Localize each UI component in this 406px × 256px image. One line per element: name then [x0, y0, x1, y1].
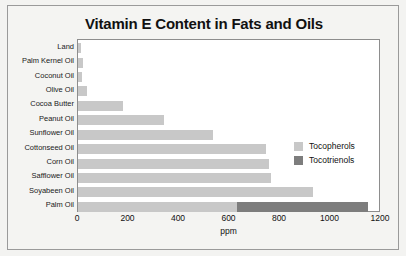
y-axis-label: Palm Kernel Oil: [8, 56, 74, 65]
bar-row: [78, 159, 269, 169]
legend-swatch: [294, 142, 303, 151]
x-axis-tick-label: 0: [75, 213, 80, 223]
chart-frame: Vitamin E Content in Fats and Oils LandP…: [7, 5, 399, 250]
y-axis-label: Sunflower Oil: [8, 128, 74, 137]
legend-label: Tocopherols: [309, 141, 355, 151]
y-axis-label: Land: [8, 42, 74, 51]
y-axis-label: Cottonseed Oil: [8, 143, 74, 152]
bar-row: [78, 115, 164, 125]
bar-segment-tocopherols: [78, 58, 83, 68]
legend-item: Tocopherols: [294, 140, 355, 152]
plot-area: TocopherolsTocotrienols: [77, 39, 380, 212]
bar-segment-tocopherols: [78, 187, 313, 197]
legend-item: Tocotrienols: [294, 154, 355, 166]
y-axis-label: Cocoa Butter: [8, 99, 74, 108]
bar-segment-tocopherols: [78, 202, 237, 212]
x-axis-tick-label: 800: [272, 213, 286, 223]
bar-segment-tocopherols: [78, 43, 81, 53]
x-axis-tick-label: 600: [221, 213, 235, 223]
bar-row: [78, 86, 87, 96]
bar-segment-tocopherols: [78, 159, 269, 169]
bar-row: [78, 72, 82, 82]
y-axis-category-labels: LandPalm Kernel OilCoconut OilOlive OilC…: [8, 39, 74, 212]
bar-segment-tocopherols: [78, 115, 164, 125]
bar-segment-tocopherols: [78, 86, 87, 96]
bar-segment-tocopherols: [78, 144, 266, 154]
x-axis-tick-label: 400: [171, 213, 185, 223]
chart-legend: TocopherolsTocotrienols: [294, 140, 355, 168]
legend-swatch: [294, 156, 303, 165]
y-axis-label: Safflower Oil: [8, 171, 74, 180]
bar-row: [78, 58, 83, 68]
y-axis-label: Soyabeen Oil: [8, 186, 74, 195]
y-axis-label: Peanut Oil: [8, 114, 74, 123]
bar-row: [78, 202, 368, 212]
bar-row: [78, 144, 266, 154]
bar-row: [78, 130, 213, 140]
x-axis-tick-label: 1200: [371, 213, 390, 223]
bar-row: [78, 173, 271, 183]
x-axis-tick-label: 1000: [320, 213, 339, 223]
x-axis-tick-label: 200: [120, 213, 134, 223]
x-axis-ticks: 020040060080010001200: [77, 213, 380, 227]
bar-segment-tocotrienols: [237, 202, 368, 212]
bar-row: [78, 187, 313, 197]
bar-row: [78, 43, 81, 53]
bar-segment-tocopherols: [78, 72, 82, 82]
chart-screenshot: Vitamin E Content in Fats and Oils LandP…: [0, 0, 406, 256]
bar-segment-tocopherols: [78, 130, 213, 140]
bar-segment-tocopherols: [78, 173, 271, 183]
bar-row: [78, 101, 123, 111]
y-axis-label: Palm Oil: [8, 200, 74, 209]
legend-label: Tocotrienols: [309, 155, 354, 165]
y-axis-label: Olive Oil: [8, 85, 74, 94]
bar-segment-tocopherols: [78, 101, 123, 111]
chart-title: Vitamin E Content in Fats and Oils: [8, 15, 400, 32]
y-axis-label: Coconut Oil: [8, 71, 74, 80]
bars-layer: [78, 40, 379, 211]
y-axis-label: Corn Oil: [8, 157, 74, 166]
x-axis-label: ppm: [77, 226, 380, 236]
